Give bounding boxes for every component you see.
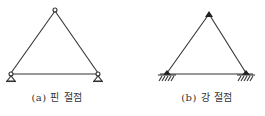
member-left [167, 14, 209, 73]
figure-a-pin-joint-truss [6, 8, 103, 82]
fixed-support-icon [237, 70, 255, 81]
caption-a: (a) 핀 절점 [31, 89, 82, 104]
caption-b: (b) 강 절점 [181, 89, 233, 104]
pin-support-icon [93, 72, 103, 82]
fixed-support-icon [158, 70, 176, 81]
pin-joint-icon [53, 8, 57, 12]
figure-b-rigid-joint-truss [158, 11, 255, 81]
pin-support-icon [6, 72, 16, 82]
rigid-joint-icon [205, 11, 213, 17]
member-left [11, 11, 55, 73]
member-right [55, 11, 98, 73]
member-right [209, 14, 246, 73]
